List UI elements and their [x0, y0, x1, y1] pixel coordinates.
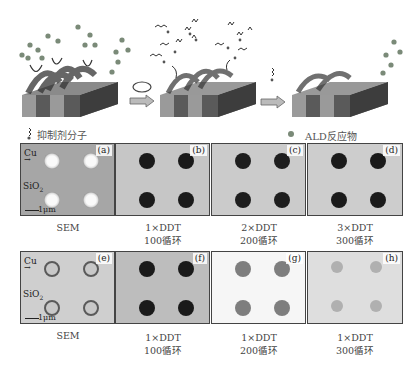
dark-via: [274, 192, 290, 208]
dark-via: [139, 261, 155, 277]
scale-label: 1μm: [38, 313, 56, 323]
panel-label: (h): [383, 253, 400, 264]
ald-process-schematic: [0, 0, 420, 125]
map-panel-d: (d): [307, 143, 403, 216]
cycle-arrow-icon: [133, 82, 151, 92]
faint-via: [331, 300, 343, 312]
faint-via: [331, 261, 343, 273]
dark-via: [178, 192, 194, 208]
dark-via: [178, 261, 194, 277]
cu-via: [44, 153, 60, 169]
caption-f: 1×DDT100循环: [115, 331, 211, 357]
dark-via: [178, 300, 194, 316]
dark-via: [235, 153, 251, 169]
dark-via: [235, 192, 251, 208]
dark-via: [139, 192, 155, 208]
legend-inhibitor-label: 抑制剂分子: [37, 127, 87, 142]
panel-label: (a): [96, 145, 112, 156]
cu-via-ring: [83, 300, 99, 316]
scale-label: 1μm: [38, 205, 56, 215]
caption-b: 1×DDT100循环: [115, 221, 211, 247]
caption-e: SEM: [20, 329, 116, 342]
dark-via: [139, 153, 155, 169]
caption-g: 1×DDT200循环: [211, 331, 307, 357]
faint-via: [370, 261, 382, 273]
sio2-label: SiO2: [23, 181, 43, 195]
dark-via: [370, 192, 386, 208]
sio2-label: SiO2: [23, 289, 43, 303]
caption-a: SEM: [20, 221, 116, 234]
legend-reactant-label: ALD反应物: [305, 128, 357, 143]
dark-via: [331, 153, 347, 169]
dark-via: [139, 300, 155, 316]
sem-panel-a: Cu → SiO2 1μm (a): [20, 143, 115, 216]
inhibitor-molecule-icon: [26, 127, 34, 140]
map-panel-f: (f): [115, 251, 210, 324]
faint-via: [235, 300, 251, 316]
right-arrow-icon-2: [261, 96, 285, 108]
panel-label: (d): [383, 145, 400, 156]
substrate-block-stage-3: [292, 39, 403, 117]
caption-d: 3×DDT300循环: [307, 221, 403, 247]
cu-via-ring: [44, 261, 60, 277]
inhibitor-molecule-icon: [271, 68, 274, 81]
right-arrow-icon-1: [130, 95, 154, 107]
panel-label: (c): [287, 145, 303, 156]
cu-pointer-arrow-icon: →: [24, 155, 31, 165]
map-panel-b: (b): [115, 143, 210, 216]
dark-via: [331, 192, 347, 208]
map-panel-c: (c): [211, 143, 306, 216]
scale-bar: [25, 210, 39, 211]
panel-label: (b): [190, 145, 207, 156]
cu-via: [83, 192, 99, 208]
panel-label: (e): [96, 253, 112, 264]
faint-via: [235, 261, 251, 277]
cu-pointer-arrow-icon: →: [24, 263, 31, 273]
substrate-block-stage-1: [19, 24, 130, 117]
faint-via: [370, 300, 382, 312]
panel-label: (f): [193, 253, 207, 264]
map-panel-g: (g): [211, 251, 306, 324]
caption-h: 1×DDT300循环: [307, 331, 403, 357]
substrate-block-stage-2: [150, 19, 256, 117]
panel-label: (g): [286, 253, 303, 264]
faint-via: [274, 300, 290, 316]
scale-bar: [25, 318, 39, 319]
reactant-dot-icon: [288, 131, 294, 137]
caption-c: 2×DDT200循环: [211, 221, 307, 247]
map-panel-h: (h): [307, 251, 403, 324]
sem-panel-e: Cu → SiO2 1μm (e): [20, 251, 115, 324]
